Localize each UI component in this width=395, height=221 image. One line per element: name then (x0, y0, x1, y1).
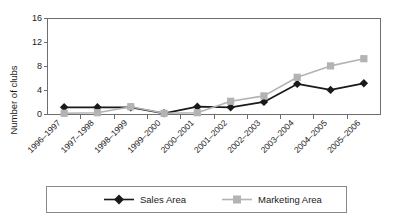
x-tick-label: 2002–2003 (225, 118, 262, 155)
data-point-square-icon (194, 109, 201, 116)
data-point-diamond-icon (360, 79, 368, 87)
data-point-diamond-icon (326, 86, 334, 94)
data-point-square-icon (127, 103, 134, 110)
y-axis-title: Number of clubs (8, 65, 19, 134)
data-point-square-icon (360, 55, 367, 62)
legend-marker-square-icon (233, 196, 241, 204)
chart-container: Number of clubs 16 12 8 4 0 (0, 0, 395, 221)
data-point-square-icon (61, 110, 68, 117)
y-tick-4: 4 (37, 85, 42, 95)
legend-label-sales-area: Sales Area (140, 194, 187, 205)
legend-label-marketing-area: Marketing Area (258, 194, 323, 205)
x-tick-label: 1998–1999 (92, 118, 129, 155)
line-chart: Number of clubs 16 12 8 4 0 (0, 0, 395, 221)
y-tick-12: 12 (32, 37, 42, 47)
y-tick-8: 8 (37, 61, 42, 71)
x-tick-label: 2005–2006 (325, 118, 362, 155)
y-tick-16: 16 (32, 13, 42, 23)
series-line (64, 83, 364, 113)
data-point-square-icon (94, 109, 101, 116)
data-point-square-icon (160, 110, 167, 117)
y-tick-0: 0 (37, 109, 42, 119)
x-tick-label: 2000–2001 (159, 118, 196, 155)
chart-legend: Sales Area Marketing Area (47, 187, 347, 213)
data-point-square-icon (227, 98, 234, 105)
x-tick-label: 1997–1998 (59, 118, 96, 155)
y-axis-tick-labels: 16 12 8 4 0 (32, 13, 42, 119)
data-point-diamond-icon (293, 80, 301, 88)
y-tick-marks (44, 19, 48, 115)
series-line (64, 59, 364, 114)
x-axis-tick-labels: 1996–19971997–19981998–19991999–20002000… (25, 118, 362, 155)
series-layer (60, 55, 368, 117)
x-tick-label: 1999–2000 (125, 118, 162, 155)
data-point-square-icon (327, 62, 334, 69)
x-tick-label: 2001–2002 (192, 118, 229, 155)
x-tick-label: 2004–2005 (292, 118, 329, 155)
x-tick-label: 1996–1997 (25, 118, 62, 155)
data-point-square-icon (294, 74, 301, 81)
legend-item-marketing-area[interactable]: Marketing Area (222, 194, 323, 205)
data-point-square-icon (260, 92, 267, 99)
x-tick-label: 2003–2004 (259, 118, 296, 155)
